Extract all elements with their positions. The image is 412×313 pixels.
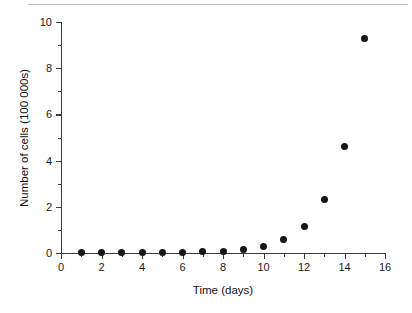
x-tick-16	[385, 254, 386, 259]
x-tick-label-16: 16	[379, 262, 391, 273]
x-minor-tick-9	[243, 254, 244, 257]
x-minor-tick-13	[324, 254, 325, 257]
plot-area: 0246810121416 0246810	[0, 0, 412, 313]
data-point	[361, 35, 368, 42]
data-point	[118, 249, 125, 256]
x-tick-label-6: 6	[179, 262, 185, 273]
data-point	[301, 223, 308, 230]
y-tick-0	[56, 253, 61, 254]
data-point	[321, 196, 328, 203]
data-point	[220, 248, 227, 255]
x-tick-label-10: 10	[257, 262, 269, 273]
y-tick-2	[56, 207, 61, 208]
y-axis-line	[61, 22, 62, 254]
x-minor-tick-11	[284, 254, 285, 257]
data-point	[139, 249, 146, 256]
y-tick-label-10: 10	[40, 17, 52, 28]
x-tick-12	[304, 254, 305, 259]
data-point	[159, 249, 166, 256]
y-tick-label-4: 4	[46, 155, 52, 166]
y-tick-4	[56, 161, 61, 162]
data-point	[240, 246, 247, 253]
y-tick-label-6: 6	[46, 109, 52, 120]
data-point	[280, 236, 287, 243]
x-tick-label-2: 2	[98, 262, 104, 273]
y-minor-tick-1	[58, 230, 61, 231]
data-point	[260, 243, 267, 250]
y-minor-tick-9	[58, 45, 61, 46]
y-minor-tick-3	[58, 184, 61, 185]
y-tick-label-8: 8	[46, 63, 52, 74]
chart-figure: 0246810121416 0246810 Time (days) Number…	[0, 0, 412, 313]
data-point	[179, 249, 186, 256]
data-point	[78, 249, 85, 256]
y-tick-label-0: 0	[46, 248, 52, 259]
x-minor-tick-15	[365, 254, 366, 257]
y-tick-label-2: 2	[46, 201, 52, 212]
y-tick-10	[56, 22, 61, 23]
y-tick-8	[56, 68, 61, 69]
y-minor-tick-5	[58, 138, 61, 139]
x-tick-label-14: 14	[338, 262, 350, 273]
y-tick-6	[56, 114, 61, 115]
data-point	[341, 143, 348, 150]
x-tick-10	[264, 254, 265, 259]
x-tick-label-4: 4	[139, 262, 145, 273]
x-tick-label-8: 8	[220, 262, 226, 273]
x-tick-label-0: 0	[58, 262, 64, 273]
x-axis-title: Time (days)	[193, 284, 253, 296]
x-tick-0	[61, 254, 62, 259]
x-tick-label-12: 12	[298, 262, 310, 273]
data-point	[98, 249, 105, 256]
y-axis-title: Number of cells (100 000s)	[18, 69, 30, 207]
y-minor-tick-7	[58, 91, 61, 92]
x-tick-14	[345, 254, 346, 259]
